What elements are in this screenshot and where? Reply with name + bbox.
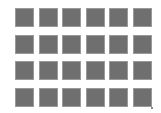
grid-tile-r3-c6[interactable] xyxy=(133,61,152,80)
grid-tile-r2-c2[interactable] xyxy=(39,35,58,54)
grid-tile-r1-c3[interactable] xyxy=(62,8,81,27)
grid-tile-r1-c5[interactable] xyxy=(109,8,128,27)
grid-tile-r3-c5[interactable] xyxy=(109,61,128,80)
grid-tile-r3-c2[interactable] xyxy=(39,61,58,80)
grid-tile-r2-c6[interactable] xyxy=(133,35,152,54)
grid-tile-r4-c2[interactable] xyxy=(39,88,58,107)
resize-grip-icon[interactable] xyxy=(151,107,153,109)
grid-tile-r1-c4[interactable] xyxy=(86,8,105,27)
grid-tile-r4-c6[interactable] xyxy=(133,88,152,107)
grid-tile-r1-c1[interactable] xyxy=(15,8,34,27)
tile-grid xyxy=(15,8,152,107)
grid-tile-r3-c4[interactable] xyxy=(86,61,105,80)
grid-tile-r4-c4[interactable] xyxy=(86,88,105,107)
grid-tile-r2-c1[interactable] xyxy=(15,35,34,54)
grid-tile-r2-c5[interactable] xyxy=(109,35,128,54)
grid-tile-r1-c6[interactable] xyxy=(133,8,152,27)
grid-tile-r2-c4[interactable] xyxy=(86,35,105,54)
grid-tile-r4-c5[interactable] xyxy=(109,88,128,107)
grid-tile-r4-c1[interactable] xyxy=(15,88,34,107)
grid-tile-r1-c2[interactable] xyxy=(39,8,58,27)
grid-tile-r4-c3[interactable] xyxy=(62,88,81,107)
grid-tile-r2-c3[interactable] xyxy=(62,35,81,54)
grid-tile-r3-c1[interactable] xyxy=(15,61,34,80)
grid-tile-r3-c3[interactable] xyxy=(62,61,81,80)
